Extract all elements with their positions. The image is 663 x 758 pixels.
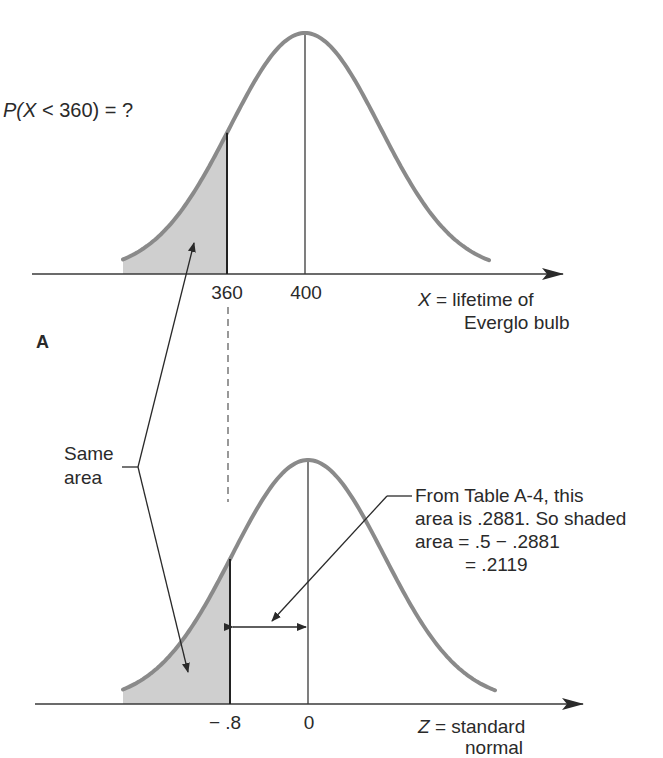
bottom-tick-0: 0	[304, 712, 315, 734]
same-area-arrow-bottom	[138, 467, 188, 672]
annotation-arrow	[272, 496, 387, 621]
z-axis-label-line2: normal	[465, 737, 523, 758]
annotation-line2: area is .2881. So shaded	[415, 508, 626, 530]
annotation-line4: = .2119	[465, 554, 528, 576]
same-area-arrow-top	[138, 243, 194, 467]
x-axis-label-line2: Everglo bulb	[464, 312, 570, 334]
z-axis-var: Z	[418, 716, 430, 737]
x-axis-var: X	[418, 289, 431, 310]
z-axis-label: Z = standard	[418, 716, 525, 738]
probability-question: P(X < 360) = ?	[3, 99, 133, 121]
question-prefix: P(	[3, 99, 23, 121]
z-axis-eq: = standard	[430, 716, 526, 737]
same-area-line2: area	[64, 467, 102, 489]
top-tick-360: 360	[211, 282, 243, 304]
x-axis-label: X = lifetime of	[418, 289, 534, 311]
same-area-line1: Same	[64, 443, 114, 465]
question-rest: < 360) = ?	[36, 99, 133, 121]
top-tick-400: 400	[290, 282, 322, 304]
x-axis-eq: = lifetime of	[431, 289, 534, 310]
question-var: X	[23, 99, 36, 121]
same-area-pointer	[122, 243, 194, 672]
annotation-line3: area = .5 − .2881	[415, 531, 560, 553]
annotation-line1: From Table A-4, this	[415, 485, 584, 507]
panel-label: A	[36, 331, 49, 353]
bottom-tick-neg-0.8: − .8	[209, 712, 241, 734]
top-plot	[32, 33, 563, 274]
